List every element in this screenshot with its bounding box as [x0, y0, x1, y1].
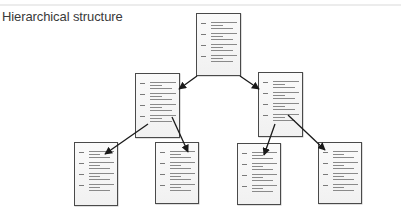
- entry-text-lines: [170, 151, 195, 160]
- text-line: [150, 110, 172, 111]
- text-line: [333, 157, 354, 158]
- document-entry: [242, 163, 277, 172]
- document-entry: [160, 184, 195, 193]
- document-entry: [79, 162, 114, 171]
- entry-marker: [79, 174, 84, 175]
- entry-text-lines: [252, 185, 277, 194]
- diagram-title: Hierarchical structure: [2, 9, 123, 24]
- text-line: [273, 106, 285, 107]
- entry-text-lines: [333, 162, 358, 171]
- entry-text-lines: [150, 82, 176, 91]
- text-line: [333, 173, 358, 174]
- document-entry: [140, 104, 176, 113]
- document-entry: [263, 92, 299, 101]
- text-line: [211, 44, 237, 45]
- text-line: [170, 154, 181, 155]
- entry-marker: [79, 163, 84, 164]
- text-line: [150, 82, 176, 83]
- document-entry: [160, 162, 195, 171]
- text-line: [89, 190, 110, 191]
- document-entry: [323, 173, 358, 182]
- entry-marker: [201, 56, 206, 57]
- entry-text-lines: [89, 162, 114, 171]
- entry-marker: [140, 116, 145, 117]
- entry-marker: [263, 104, 268, 105]
- document-entry: [160, 151, 195, 160]
- entry-marker: [79, 185, 84, 186]
- entry-text-lines: [273, 114, 299, 123]
- entry-marker: [160, 185, 165, 186]
- document-entry: [242, 152, 277, 161]
- text-line: [273, 109, 295, 110]
- entry-marker: [201, 23, 206, 24]
- entry-marker: [323, 163, 328, 164]
- entry-marker: [160, 163, 165, 164]
- leaf-document-3: [237, 143, 281, 205]
- text-line: [333, 179, 354, 180]
- document-entry: [201, 55, 237, 64]
- text-line: [170, 179, 191, 180]
- entry-text-lines: [170, 184, 195, 193]
- document-entry: [323, 151, 358, 160]
- document-entry: [160, 173, 195, 182]
- text-line: [170, 173, 195, 174]
- entry-marker: [323, 174, 328, 175]
- text-line: [211, 50, 233, 51]
- leaf-document-2: [155, 142, 199, 204]
- text-line: [150, 104, 176, 105]
- text-line: [211, 58, 223, 59]
- entry-marker: [242, 175, 247, 176]
- text-line: [333, 151, 358, 152]
- text-line: [273, 98, 295, 99]
- leaf-document-1: [74, 142, 118, 206]
- entry-marker: [140, 105, 145, 106]
- text-line: [252, 180, 273, 181]
- text-line: [211, 61, 233, 62]
- text-line: [170, 165, 181, 166]
- entry-text-lines: [89, 151, 114, 160]
- entry-text-lines: [150, 93, 176, 102]
- entry-text-lines: [170, 173, 195, 182]
- text-line: [252, 163, 277, 164]
- text-line: [252, 152, 277, 153]
- text-line: [150, 99, 172, 100]
- entry-marker: [140, 94, 145, 95]
- entry-text-lines: [333, 184, 358, 193]
- document-entry: [79, 151, 114, 160]
- text-line: [273, 117, 285, 118]
- root-document: [196, 13, 241, 76]
- text-line: [273, 103, 299, 104]
- text-line: [89, 176, 100, 177]
- text-line: [273, 114, 299, 115]
- leaf-document-4: [318, 142, 362, 204]
- text-line: [150, 93, 176, 94]
- text-line: [333, 162, 358, 163]
- text-line: [252, 158, 273, 159]
- document-entry: [140, 93, 176, 102]
- entry-marker: [323, 152, 328, 153]
- text-line: [211, 22, 237, 23]
- text-line: [150, 96, 162, 97]
- entry-marker: [201, 45, 206, 46]
- text-line: [211, 28, 233, 29]
- text-line: [211, 55, 237, 56]
- text-line: [89, 187, 100, 188]
- child-document-right: [258, 72, 303, 137]
- text-line: [273, 120, 295, 121]
- text-line: [333, 187, 344, 188]
- entry-marker: [323, 185, 328, 186]
- entry-text-lines: [252, 152, 277, 161]
- document-entry: [201, 33, 237, 42]
- text-line: [170, 151, 195, 152]
- text-line: [273, 92, 299, 93]
- entry-marker: [140, 83, 145, 84]
- text-line: [89, 184, 114, 185]
- entry-marker: [79, 152, 84, 153]
- text-line: [150, 85, 162, 86]
- text-line: [150, 115, 176, 116]
- text-line: [333, 165, 344, 166]
- entry-text-lines: [211, 44, 237, 53]
- top-divider: [0, 4, 401, 6]
- document-entry: [323, 162, 358, 171]
- text-line: [252, 177, 263, 178]
